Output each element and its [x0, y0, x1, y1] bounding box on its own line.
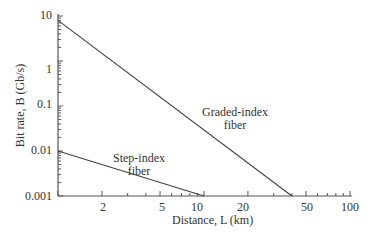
x-tick-label: 100 — [335, 200, 365, 215]
y-tick-label: 0.01 — [4, 143, 52, 158]
x-axis-label: Distance, L (km) — [172, 213, 253, 228]
plot-area — [0, 0, 376, 233]
x-tick-label: 50 — [292, 200, 322, 215]
annotation-line: fiber — [190, 119, 280, 132]
y-tick-label: 0.1 — [4, 97, 52, 112]
y-axis-label: Bit rate, B (Gb/s) — [13, 46, 28, 166]
y-tick-label: 10 — [4, 8, 52, 23]
x-tick-label: 2 — [88, 200, 118, 215]
annotation-line: fiber — [104, 165, 174, 178]
y-tick-label: 1 — [4, 62, 52, 77]
step-index-annotation: Step-index fiber — [104, 152, 174, 178]
y-tick-label: 0.001 — [4, 189, 52, 204]
graded-index-annotation: Graded-index fiber — [190, 106, 280, 132]
